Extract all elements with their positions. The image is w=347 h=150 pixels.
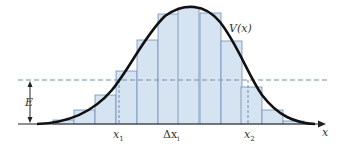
riemann-bar [137,40,158,124]
x2-label: x2 [244,128,255,143]
energy-arrow-up-icon [28,81,33,87]
curve-label: V(x) [229,22,252,35]
riemann-bar [178,8,199,124]
energy-label: E [24,96,33,109]
riemann-bar [95,95,116,124]
axis-x-label: x [322,126,329,139]
delta-x-label: Δxi [163,128,180,143]
x1-label: x1 [113,128,124,143]
riemann-bars [53,8,304,124]
energy-arrow-down-icon [28,117,33,123]
potential-barrier-diagram: E V(x) x1 Δxi x2 x [0,0,347,150]
riemann-bar [158,14,179,124]
riemann-bar [200,13,221,124]
